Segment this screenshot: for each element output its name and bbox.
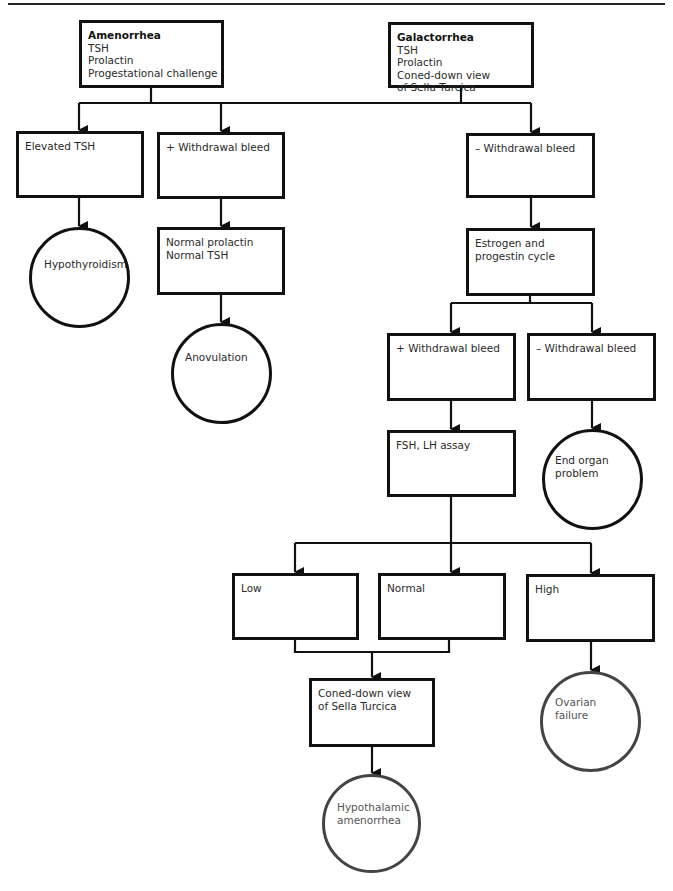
box-galactorrhea: Galactorrhea TSH Prolactin Coned-down vi… (388, 22, 534, 88)
box-line: Normal (387, 582, 498, 595)
box-line: progestin cycle (475, 250, 587, 263)
box-line: Estrogen and (475, 237, 587, 250)
box-coned-down-view: Coned-down view of Sella Turcica (309, 678, 435, 747)
box-line: – Withdrawal bleed (475, 142, 587, 155)
outcome-ovarian-failure: Ovarian failure (540, 671, 641, 772)
box-normal: Normal (378, 573, 506, 640)
box-line: High (535, 583, 647, 596)
box-amenorrhea: Amenorrhea TSH Prolactin Progestational … (79, 20, 224, 88)
box-line: Progestational challenge (88, 67, 216, 80)
box-line: of Sella Turcica (397, 81, 526, 94)
box-line: Elevated TSH (25, 140, 136, 153)
outcome-end-organ-problem: End organ problem (542, 429, 643, 530)
box-line: Coned-down view (397, 69, 526, 82)
outcome-label: failure (555, 709, 596, 722)
box-estrogen-progestin-cycle: Estrogen and progestin cycle (466, 228, 595, 296)
box-fsh-lh-assay: FSH, LH assay (387, 430, 516, 497)
outcome-label: problem (555, 467, 609, 480)
box-plus-withdrawal-bleed-2: + Withdrawal bleed (387, 333, 516, 401)
box-line: Low (241, 582, 351, 595)
box-line: Prolactin (88, 54, 216, 67)
outcome-label: Ovarian (555, 696, 596, 709)
box-normal-prolactin-tsh: Normal prolactin Normal TSH (157, 227, 285, 295)
box-line: Normal TSH (166, 249, 277, 262)
outcome-hypothyroidism: Hypothyroidism (29, 227, 130, 328)
box-title: Galactorrhea (397, 31, 526, 44)
box-line: – Withdrawal bleed (536, 342, 648, 355)
box-line: TSH (88, 42, 216, 55)
outcome-label: End organ (555, 454, 609, 467)
outcome-hypothalamic-amenorrhea: Hypothalamic amenorrhea (322, 774, 421, 873)
outcome-label: Anovulation (185, 351, 248, 364)
box-low: Low (232, 573, 359, 640)
box-line: + Withdrawal bleed (166, 141, 277, 154)
outcome-label: amenorrhea (337, 814, 410, 827)
outcome-label: Hypothyroidism (44, 258, 127, 271)
box-line: FSH, LH assay (396, 439, 508, 452)
outcome-anovulation: Anovulation (171, 323, 272, 424)
box-line: of Sella Turcica (318, 700, 427, 713)
box-high: High (526, 574, 655, 642)
box-line: Coned-down view (318, 687, 427, 700)
outcome-label: Hypothalamic (337, 801, 410, 814)
box-minus-withdrawal-bleed-2: – Withdrawal bleed (527, 333, 656, 401)
box-line: Normal prolactin (166, 236, 277, 249)
box-line: TSH (397, 44, 526, 57)
box-minus-withdrawal-bleed-1: – Withdrawal bleed (466, 133, 595, 198)
box-title: Amenorrhea (88, 29, 216, 42)
box-plus-withdrawal-bleed-1: + Withdrawal bleed (157, 132, 285, 199)
box-elevated-tsh: Elevated TSH (16, 131, 144, 198)
box-line: + Withdrawal bleed (396, 342, 508, 355)
box-line: Prolactin (397, 56, 526, 69)
